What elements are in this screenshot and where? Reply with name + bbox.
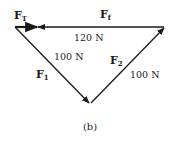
f1-label: F1 (36, 68, 49, 82)
f2-label: F2 (110, 54, 123, 68)
f2-magnitude: 100 N (130, 69, 159, 80)
figure-caption: (b) (83, 121, 97, 132)
f1-magnitude: 100 N (54, 51, 83, 62)
ff-magnitude: 120 N (74, 32, 103, 43)
ff-label: Ff (100, 8, 112, 22)
ft-label: FT (14, 9, 28, 23)
force-triangle-diagram: FT Ff 120 N 100 N F1 F2 100 N (b) (0, 0, 174, 143)
